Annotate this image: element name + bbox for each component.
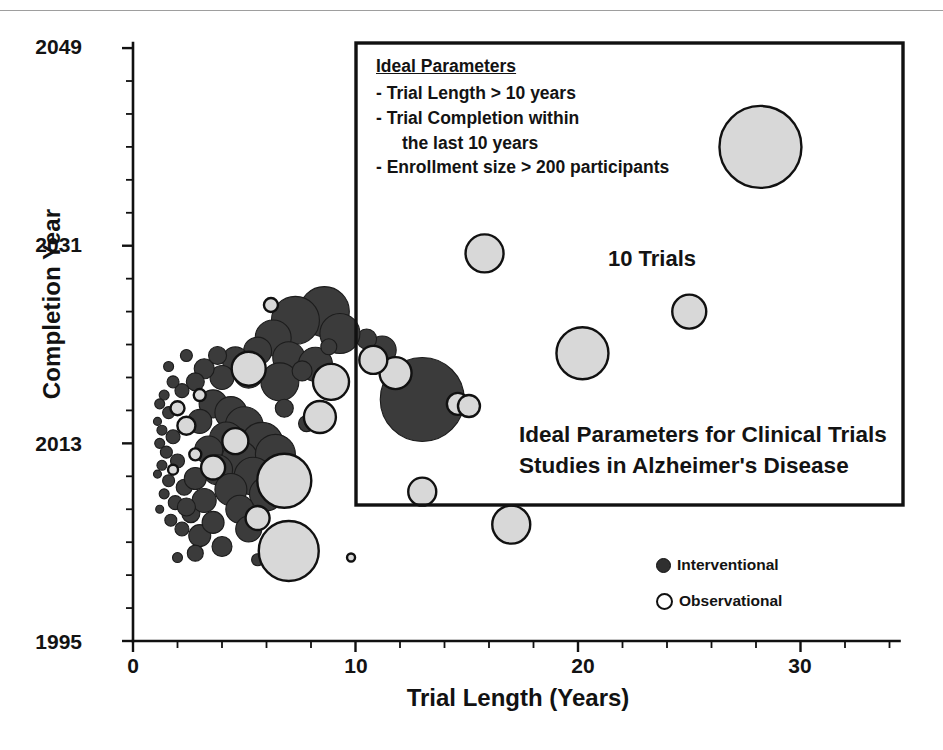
bubble-interventional[interactable] — [155, 399, 165, 409]
legend-item-interventional[interactable]: Interventional — [656, 556, 856, 574]
bubble-observational[interactable] — [246, 506, 270, 530]
legend-label: Observational — [679, 592, 782, 610]
trials-count-annotation: 10 Trials — [608, 246, 696, 272]
bubble-observational[interactable] — [222, 428, 248, 454]
bubble-observational[interactable] — [232, 352, 266, 386]
bubble-interventional[interactable] — [157, 425, 167, 435]
bubble-interventional[interactable] — [164, 362, 174, 372]
bubble-observational[interactable] — [177, 417, 195, 435]
bubble-interventional[interactable] — [153, 470, 161, 478]
ideal-parameters-heading: Ideal Parameters — [376, 54, 706, 79]
bubble-observational[interactable] — [347, 554, 355, 562]
x-axis-tick-label: 10 — [316, 654, 396, 678]
figure-bubble-chart: Completion Year Trial Length (Years) 204… — [0, 0, 943, 750]
bubble-interventional[interactable] — [175, 522, 189, 536]
bubble-interventional[interactable] — [292, 361, 312, 381]
bubble-interventional[interactable] — [165, 514, 177, 526]
bubble-interventional[interactable] — [160, 446, 172, 458]
bubble-interventional[interactable] — [212, 537, 232, 557]
bubble-interventional[interactable] — [166, 430, 180, 444]
y-axis-tick-label: 2031 — [0, 233, 82, 257]
bubble-interventional[interactable] — [177, 498, 195, 516]
x-axis-tick-label: 20 — [543, 654, 623, 678]
bubble-interventional[interactable] — [209, 347, 227, 365]
ideal-parameter-item: - Trial Length > 10 years — [376, 81, 706, 106]
ideal-parameter-item: - Trial Completion within — [376, 106, 706, 131]
x-axis-title: Trial Length (Years) — [133, 684, 903, 712]
bubble-observational[interactable] — [257, 454, 311, 508]
legend-item-observational[interactable]: Observational — [656, 592, 856, 610]
bubble-interventional[interactable] — [275, 399, 293, 417]
bubble-observational[interactable] — [466, 234, 504, 272]
y-axis-tick-label: 2049 — [0, 35, 82, 59]
x-axis-tick-label: 30 — [760, 654, 840, 678]
bubble-interventional[interactable] — [167, 376, 179, 388]
bubble-observational[interactable] — [359, 346, 387, 374]
ideal-parameter-item: - Enrollment size > 200 participants — [376, 155, 706, 180]
bubble-observational[interactable] — [259, 521, 319, 581]
bubble-observational[interactable] — [171, 401, 185, 415]
bubble-observational[interactable] — [556, 327, 608, 379]
bubble-observational[interactable] — [201, 456, 225, 480]
bubble-interventional[interactable] — [163, 475, 175, 487]
bubble-observational[interactable] — [313, 364, 349, 400]
y-axis-tick-label: 1995 — [0, 630, 82, 654]
bubble-interventional[interactable] — [321, 339, 337, 355]
bubble-interventional[interactable] — [202, 511, 224, 533]
bubble-observational[interactable] — [492, 506, 530, 544]
chart-legend: Interventional Observational — [656, 556, 856, 628]
bubble-observational[interactable] — [672, 295, 706, 329]
x-axis-tick-label: 0 — [93, 654, 173, 678]
y-axis-title: Completion Year — [38, 174, 66, 434]
bubble-observational[interactable] — [168, 465, 178, 475]
legend-label: Interventional — [677, 556, 779, 574]
bubble-observational[interactable] — [408, 478, 436, 506]
ideal-parameter-item-continuation: the last 10 years — [376, 131, 706, 156]
bubble-interventional[interactable] — [153, 417, 161, 425]
bubble-interventional[interactable] — [159, 489, 169, 499]
bubble-interventional[interactable] — [156, 505, 164, 513]
bubble-interventional[interactable] — [180, 350, 192, 362]
filled-circle-icon — [656, 558, 671, 573]
hollow-circle-icon — [656, 593, 673, 610]
bubble-interventional[interactable] — [157, 460, 167, 470]
bubble-observational[interactable] — [458, 395, 480, 417]
figure-caption-title: Ideal Parameters for Clinical Trials Stu… — [519, 419, 891, 481]
bubble-observational[interactable] — [264, 298, 278, 312]
bubble-observational[interactable] — [719, 106, 801, 188]
y-axis-tick-label: 2013 — [0, 432, 82, 456]
bubble-observational[interactable] — [189, 448, 201, 460]
ideal-parameters-text-block: Ideal Parameters - Trial Length > 10 yea… — [376, 54, 706, 180]
bubble-interventional[interactable] — [173, 553, 183, 563]
bubble-interventional[interactable] — [187, 545, 203, 561]
bubble-observational[interactable] — [304, 401, 336, 433]
bubble-observational[interactable] — [194, 389, 206, 401]
bubble-interventional[interactable] — [192, 488, 216, 512]
